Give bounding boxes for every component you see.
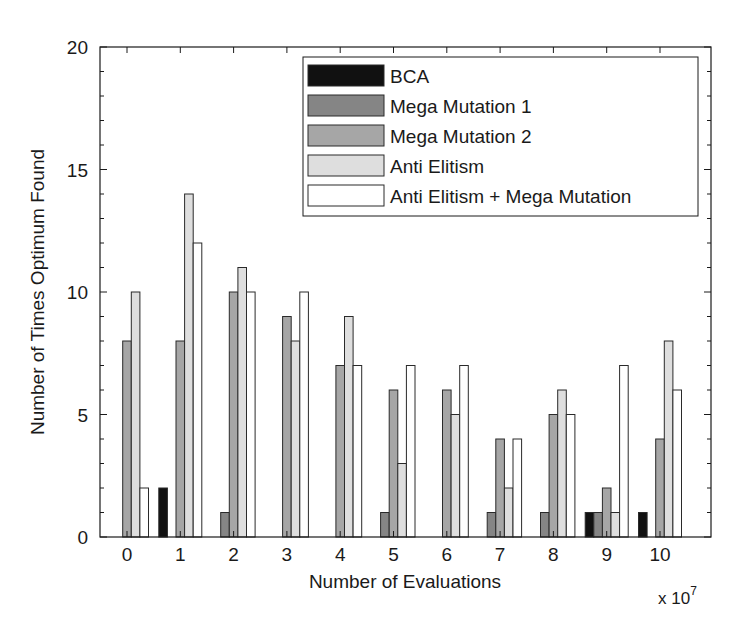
bar [247,292,256,537]
bar [406,366,415,538]
x-tick-label: 1 [175,544,186,565]
x-tick-label: 4 [335,544,346,565]
bar [594,513,603,538]
y-axis-label: Number of Times Optimum Found [27,149,48,435]
bar [398,464,407,538]
bar [140,488,149,537]
bar [664,341,673,537]
legend-label: Mega Mutation 2 [390,126,532,147]
x-tick-label: 5 [388,544,399,565]
x-multiplier-exponent: 7 [690,584,697,598]
x-axis-label: Number of Evaluations [309,571,501,592]
x-multiplier-base: x 10 [658,589,690,608]
bar [221,513,230,538]
bar [300,292,309,537]
legend-label: Anti Elitism + Mega Mutation [390,186,631,207]
bar [566,415,575,538]
bar [487,513,496,538]
y-tick-label: 15 [67,160,88,181]
bar [639,513,648,538]
bar [549,415,558,538]
legend: BCAMega Mutation 1Mega Mutation 2Anti El… [303,57,698,216]
bar [185,194,194,537]
y-tick-label: 20 [67,37,88,58]
legend-label: Mega Mutation 1 [390,96,532,117]
bar-chart: 05101520 012345678910 Number of Times Op… [0,0,744,634]
bar [193,243,202,537]
legend-item: Anti Elitism [308,155,484,177]
bar [176,341,185,537]
x-tick-labels: 012345678910 [122,544,671,565]
legend-label: BCA [390,66,429,87]
legend-swatch [308,185,384,206]
bar [558,390,567,537]
y-tick-label: 5 [77,405,88,426]
bar [389,390,398,537]
legend-item: Anti Elitism + Mega Mutation [308,185,631,207]
bar [504,488,513,537]
bar [283,317,292,538]
legend-item: Mega Mutation 2 [308,125,532,147]
legend-item: BCA [308,65,429,87]
legend-swatch [308,95,384,116]
x-tick-label: 7 [495,544,506,565]
legend-label: Anti Elitism [390,156,484,177]
bar [291,341,300,537]
bar [451,415,460,538]
x-tick-label: 2 [228,544,239,565]
x-tick-label: 9 [601,544,612,565]
bar [656,439,665,537]
bar [123,341,132,537]
bar [159,488,168,537]
bar [353,366,362,538]
x-axis-multiplier: x 107 [658,584,697,608]
bar [336,366,345,538]
chart-canvas: 05101520 012345678910 Number of Times Op… [0,0,744,634]
y-tick-label: 0 [77,527,88,548]
bar-series-group [123,194,682,537]
bar [443,390,452,537]
x-tick-label: 0 [122,544,133,565]
bar [611,513,620,538]
x-tick-label: 3 [282,544,293,565]
bar [673,390,682,537]
x-tick-label: 8 [548,544,559,565]
bar [585,513,594,538]
bar [460,366,469,538]
bar [513,439,522,537]
legend-swatch [308,65,384,86]
bar [602,488,611,537]
bar [345,317,354,538]
bar [131,292,140,537]
x-tick-label: 6 [442,544,453,565]
bar [238,268,247,538]
bar [541,513,550,538]
bar [229,292,238,537]
bar [381,513,390,538]
x-tick-label: 10 [649,544,670,565]
bar [496,439,505,537]
y-tick-label: 10 [67,282,88,303]
legend-swatch [308,125,384,146]
legend-item: Mega Mutation 1 [308,95,532,117]
legend-swatch [308,155,384,176]
bar [620,366,629,538]
y-tick-labels: 05101520 [67,37,88,548]
